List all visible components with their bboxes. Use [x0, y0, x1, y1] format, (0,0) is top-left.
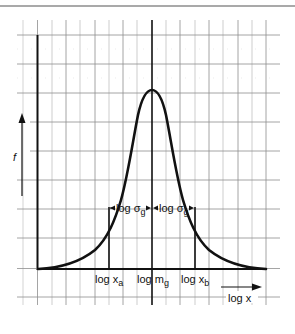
lognormal-distribution-diagram: f log σg log σg log xa log mg log xb log…	[0, 0, 295, 334]
span-left-subscript: g	[141, 207, 146, 217]
arrow-right-icon	[189, 206, 194, 211]
arrow-right-icon	[252, 284, 262, 291]
x-axis-label: log x	[228, 292, 252, 304]
grid	[17, 20, 280, 305]
svg-text:log σg: log σg	[116, 202, 146, 217]
span-left-label: log σ	[116, 202, 141, 214]
span-right-subscript: g	[184, 207, 189, 217]
y-axis-arrow	[19, 113, 26, 196]
y-axis-label: f	[13, 151, 17, 163]
label-log-mg: log mg	[137, 273, 169, 288]
arrow-right-icon	[146, 206, 151, 211]
arrow-up-icon	[19, 113, 26, 123]
span-right-log-sigma: log σg	[153, 202, 194, 217]
x-axis-arrow	[221, 284, 262, 291]
span-right-label: log σ	[159, 202, 184, 214]
arrow-left-icon	[153, 206, 158, 211]
